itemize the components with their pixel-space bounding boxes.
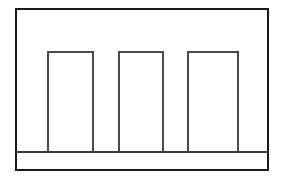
bar-2	[119, 52, 163, 152]
bar-1	[48, 52, 93, 152]
bar-3	[188, 52, 238, 152]
diagram-canvas	[0, 0, 285, 185]
figure-svg	[0, 0, 285, 185]
